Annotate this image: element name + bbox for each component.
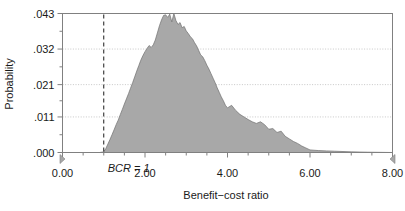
y-axis-ticks: [58, 14, 63, 153]
distribution-area-path: [63, 14, 393, 153]
x-tick-label: 8.00: [382, 167, 403, 179]
bcr-threshold-label: BCR = 1: [108, 162, 150, 174]
y-tick-label: .032: [33, 43, 54, 55]
x-axis-ticks: [63, 153, 393, 158]
x-axis-tick-labels: 0.002.004.006.008.00: [52, 167, 403, 179]
figure-container: 0.002.004.006.008.00 .000.011.021.032.04…: [0, 0, 405, 211]
x-axis-title: Benefit−cost ratio: [183, 189, 268, 201]
gridlines: [63, 14, 393, 117]
y-tick-label: .021: [33, 79, 54, 91]
benefit-cost-ratio-distribution-chart: 0.002.004.006.008.00 .000.011.021.032.04…: [0, 0, 405, 211]
y-tick-label: .000: [33, 147, 54, 159]
x-tick-label: 0.00: [52, 167, 73, 179]
probability-distribution-area: [63, 14, 393, 153]
y-axis-tick-labels: .000.011.021.032.043: [33, 8, 54, 159]
x-tick-label: 6.00: [299, 167, 320, 179]
y-tick-label: .011: [34, 111, 55, 123]
y-tick-label: .043: [33, 8, 54, 20]
y-axis-title: Probability: [3, 58, 15, 110]
x-tick-label: 4.00: [217, 167, 238, 179]
